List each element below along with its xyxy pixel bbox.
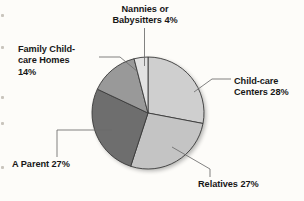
pie-label-nannies-or-babysitters: Nannies or Babysitters 4% bbox=[97, 4, 193, 27]
pie-label-child-care-centers: Child-care Centers 28% bbox=[234, 76, 304, 99]
scan-artifact bbox=[1, 122, 4, 125]
scan-artifact bbox=[1, 14, 4, 17]
pie-chart-figure: Child-care Centers 28%Relatives 27%A Par… bbox=[0, 0, 304, 201]
pie-slice-child-care-centers: Child-care Centers 28% bbox=[148, 57, 204, 123]
pie-slice-group: Child-care Centers 28%Relatives 27%A Par… bbox=[92, 57, 204, 169]
pie-label-a-parent: A Parent 27% bbox=[12, 159, 102, 170]
scan-artifact bbox=[1, 166, 4, 169]
pie-chart-canvas: Child-care Centers 28%Relatives 27%A Par… bbox=[0, 0, 304, 201]
scan-artifact bbox=[1, 46, 4, 49]
scan-artifact bbox=[1, 96, 4, 99]
pie-label-family-child-care-homes: Family Child- care Homes 14% bbox=[18, 44, 96, 78]
pie-label-relatives: Relatives 27% bbox=[198, 179, 290, 190]
